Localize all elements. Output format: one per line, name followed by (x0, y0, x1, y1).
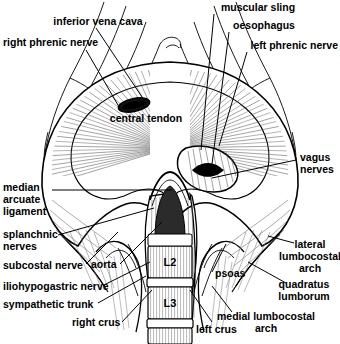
label-lateral-lumbocostal-arch-line2: lumbocostal (279, 251, 340, 263)
label-lateral-lumbocostal-arch-line3: arch (299, 263, 321, 275)
label-oesophagus: oesophagus (233, 20, 295, 32)
label-splanchnic-nerves-line2: nerves (3, 241, 37, 253)
label-right-phrenic-nerve: right phrenic nerve (3, 37, 98, 49)
label-inferior-vena-cava: inferior vena cava (53, 16, 142, 28)
label-left-crus: left crus (196, 324, 237, 336)
label-left-phrenic-nerve: left phrenic nerve (250, 40, 338, 52)
label-iliohypogastric-nerve: iliohypogastric nerve (3, 281, 109, 293)
label-sympathetic-trunk: sympathetic trunk (3, 299, 93, 311)
label-subcostal-nerve: subcostal nerve (3, 260, 83, 272)
label-right-crus: right crus (72, 317, 120, 329)
anatomy-figure-page: inferior vena cava right phrenic nerve m… (0, 0, 340, 344)
label-aorta: aorta (91, 259, 117, 271)
label-medial-lumbocostal-arch-line2: arch (255, 323, 277, 335)
label-central-tendon: central tendon (110, 113, 182, 125)
label-median-arcuate-ligament-line1: median (3, 182, 40, 194)
label-muscular-sling: muscular sling (221, 2, 295, 14)
label-vagus-nerves-line2: nerves (300, 164, 334, 176)
label-median-arcuate-ligament-line3: ligament (3, 206, 46, 218)
label-medial-lumbocostal-arch-line1: medial lumbocostal (217, 311, 315, 323)
label-median-arcuate-ligament-line2: arcuate (3, 194, 40, 206)
label-lateral-lumbocostal-arch-line1: lateral (295, 239, 326, 251)
lumbar-vertebrae (147, 234, 193, 344)
label-quadratus-lumborum-line1: quadratus (279, 279, 330, 291)
label-psoas: psoas (215, 268, 245, 280)
label-vertebra-l2: L2 (164, 256, 177, 268)
label-vertebra-l3: L3 (164, 297, 177, 309)
label-vagus-nerves-line1: vagus (300, 152, 330, 164)
label-quadratus-lumborum-line2: lumborum (278, 291, 329, 303)
label-splanchnic-nerves-line1: splanchnic (3, 229, 58, 241)
